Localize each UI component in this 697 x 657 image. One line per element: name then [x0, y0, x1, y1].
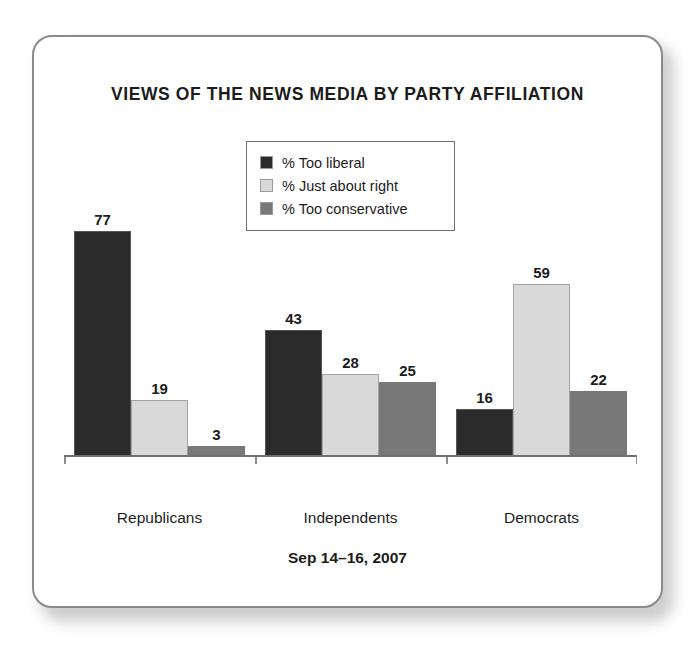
- bar-group-independents: 432825: [255, 187, 446, 455]
- bar-value-label: 19: [151, 381, 168, 396]
- bar[interactable]: 77: [74, 187, 131, 455]
- bar[interactable]: 59: [513, 187, 570, 455]
- category-label-republicans: Republicans: [64, 509, 255, 527]
- bar[interactable]: 16: [456, 187, 513, 455]
- bar[interactable]: 25: [379, 187, 436, 455]
- bar[interactable]: 3: [188, 187, 245, 455]
- bar-rect[interactable]: [322, 374, 379, 455]
- bar-value-label: 3: [212, 427, 220, 442]
- bar[interactable]: 19: [131, 187, 188, 455]
- bar-value-label: 77: [94, 212, 111, 227]
- bar-rect[interactable]: [513, 284, 570, 455]
- legend-swatch-icon: [260, 156, 273, 169]
- bar-rect[interactable]: [131, 400, 188, 455]
- bar-value-label: 28: [342, 355, 359, 370]
- bar-rect[interactable]: [265, 330, 322, 455]
- bar-value-label: 25: [399, 363, 416, 378]
- bar-value-label: 43: [285, 311, 302, 326]
- bar-rect[interactable]: [570, 391, 627, 455]
- axis-tick: [446, 457, 448, 464]
- legend-item-label: % Too liberal: [282, 155, 365, 171]
- bar-group-democrats: 165922: [446, 187, 637, 455]
- bar-rect[interactable]: [456, 409, 513, 455]
- x-axis-line: [64, 455, 637, 457]
- bar[interactable]: 22: [570, 187, 627, 455]
- chart-card: VIEWS OF THE NEWS MEDIA BY PARTY AFFILIA…: [32, 35, 663, 608]
- bar-rect[interactable]: [379, 382, 436, 455]
- legend-item-too-liberal: % Too liberal: [260, 151, 442, 174]
- bar[interactable]: 28: [322, 187, 379, 455]
- category-label-independents: Independents: [255, 509, 446, 527]
- bar-value-label: 22: [590, 372, 607, 387]
- bar-value-label: 59: [533, 265, 550, 280]
- bar-group-republicans: 77193: [64, 187, 255, 455]
- bar-rect[interactable]: [188, 446, 245, 455]
- bar-value-label: 16: [476, 390, 493, 405]
- chart-footnote: Sep 14–16, 2007: [34, 549, 661, 567]
- axis-tick: [255, 457, 257, 464]
- axis-tick: [636, 457, 638, 464]
- bar[interactable]: 43: [265, 187, 322, 455]
- chart-title: VIEWS OF THE NEWS MEDIA BY PARTY AFFILIA…: [34, 84, 661, 105]
- bar-rect[interactable]: [74, 231, 131, 455]
- axis-tick: [64, 457, 66, 464]
- category-label-democrats: Democrats: [446, 509, 637, 527]
- bar-groups: 77193432825165922: [64, 187, 637, 455]
- plot-area: 77193432825165922: [64, 187, 637, 457]
- category-axis-labels: Republicans Independents Democrats: [64, 509, 637, 527]
